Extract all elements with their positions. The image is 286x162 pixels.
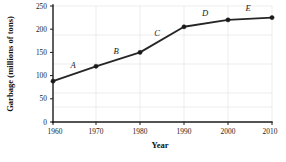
y-tick-label-200: 200 xyxy=(36,25,47,34)
y-tick-label-250: 250 xyxy=(36,2,47,11)
y-tick-label-0: 0 xyxy=(43,118,47,127)
data-point-2000 xyxy=(226,18,230,22)
segment-label-c: C xyxy=(154,28,160,38)
segment-label-d: D xyxy=(201,8,209,18)
segment-label-b: B xyxy=(113,46,119,56)
x-axis-title: Year xyxy=(151,140,168,150)
data-point-1960 xyxy=(51,79,55,83)
data-point-2010 xyxy=(270,16,274,20)
y-tick-label-100: 100 xyxy=(36,71,47,80)
data-point-1980 xyxy=(138,50,142,54)
x-tick-label-2010: 2010 xyxy=(263,127,278,136)
data-point-1990 xyxy=(182,25,186,29)
x-tick-label-1990: 1990 xyxy=(177,127,192,136)
segment-label-a: A xyxy=(69,60,76,70)
x-tick-label-2000: 2000 xyxy=(221,127,236,136)
line-chart: 250 200 150 100 50 0 1960 1970 1980 1990… xyxy=(0,0,286,162)
x-tick-label-1980: 1980 xyxy=(133,127,148,136)
y-tick-label-150: 150 xyxy=(36,48,47,57)
segment-label-e: E xyxy=(244,3,251,13)
x-tick-label-1970: 1970 xyxy=(89,127,104,136)
x-tick-label-1960: 1960 xyxy=(48,127,63,136)
y-tick-label-50: 50 xyxy=(40,94,48,103)
y-axis-title: Garbage (millions of tons) xyxy=(5,16,15,112)
data-point-1970 xyxy=(94,64,98,68)
